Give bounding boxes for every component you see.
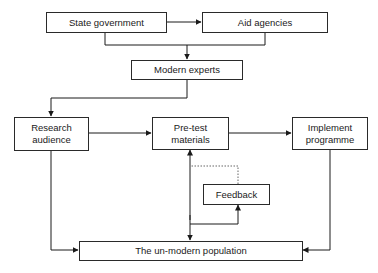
arrow-implement-population: [303, 149, 330, 250]
node-label: Research: [31, 122, 72, 134]
node-label: programme: [306, 134, 355, 146]
node-label: Feedback: [216, 189, 258, 201]
node-implement-programme: Implement programme: [292, 117, 368, 150]
arrow-research-population: [51, 150, 78, 250]
node-aid-agencies: Aid agencies: [202, 12, 328, 33]
node-label: Modern experts: [154, 64, 220, 76]
node-label: The un-modern population: [135, 245, 246, 257]
node-label: Aid agencies: [238, 17, 292, 29]
node-label: Pre-test: [174, 122, 207, 134]
node-label: audience: [32, 134, 71, 146]
arrow-to-research: [51, 79, 187, 116]
node-state-government: State government: [46, 12, 167, 33]
dotted-feedback-loop: [190, 166, 238, 184]
node-label: materials: [171, 134, 210, 146]
node-feedback: Feedback: [203, 184, 270, 205]
arrow-to-feedback: [190, 205, 238, 224]
node-label: State government: [69, 17, 144, 29]
node-label: Implement: [308, 122, 352, 134]
node-unmodern-population: The un-modern population: [79, 241, 303, 261]
node-pretest-materials: Pre-test materials: [152, 117, 229, 150]
node-research-audience: Research audience: [14, 117, 89, 151]
node-modern-experts: Modern experts: [131, 60, 243, 80]
join-line: [105, 32, 265, 45]
